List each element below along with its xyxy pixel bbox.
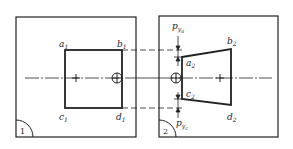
square-shape <box>65 50 122 108</box>
label-a2: a2 <box>186 58 195 69</box>
diagram: a1 b1 c1 d1 1 b2 a2 c2 d2 pya pyc 2 <box>0 0 293 149</box>
shear-center-icon <box>171 73 181 83</box>
label-c1: c1 <box>59 112 68 123</box>
panel-1-number: 1 <box>20 127 25 136</box>
dimension-p-yc <box>174 92 182 118</box>
label-p-yc: pyc <box>176 118 188 131</box>
label-b2: b2 <box>227 36 237 47</box>
label-b1: b1 <box>117 39 127 50</box>
label-d2: d2 <box>227 112 237 123</box>
shear-center-icon <box>112 73 122 83</box>
label-d1: d1 <box>116 112 126 123</box>
label-c2: c2 <box>186 89 195 100</box>
label-a1: a1 <box>59 39 68 50</box>
centroid-plus-icon <box>72 74 80 82</box>
panel-2-number: 2 <box>163 127 168 136</box>
label-p-ya: pya <box>172 21 184 34</box>
dimension-p-ya <box>174 36 182 66</box>
centroid-plus-icon <box>216 74 224 82</box>
